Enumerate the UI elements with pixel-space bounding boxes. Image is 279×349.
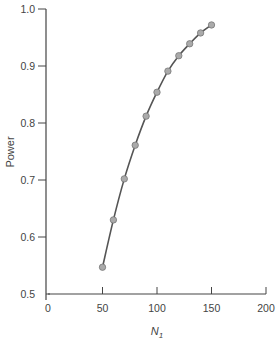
data-point-marker — [197, 30, 203, 36]
x-axis-label-main: N — [151, 325, 159, 337]
axes: 0.50.60.70.80.91.0050100150200 — [20, 3, 275, 314]
data-point-marker — [187, 41, 193, 47]
y-axis-label: Power — [4, 136, 16, 168]
y-tick-label: 0.7 — [20, 174, 35, 186]
y-tick-label: 1.0 — [20, 3, 35, 15]
data-series — [99, 22, 214, 271]
x-tick-label: 0 — [45, 302, 51, 314]
data-point-marker — [143, 113, 149, 119]
data-point-marker — [208, 22, 214, 28]
data-point-marker — [110, 217, 116, 223]
chart-canvas: 0.50.60.70.80.91.0050100150200 Power N1 — [0, 0, 279, 349]
y-tick-label: 0.6 — [20, 231, 35, 243]
power-curve-line — [103, 25, 212, 267]
power-curve-chart: 0.50.60.70.80.91.0050100150200 Power N1 — [0, 0, 279, 349]
y-tick-label: 0.9 — [20, 60, 35, 72]
x-axis-label-subscript: 1 — [159, 331, 163, 340]
data-point-marker — [176, 53, 182, 59]
x-axis-label: N1 — [151, 325, 163, 340]
x-tick-label: 150 — [203, 302, 221, 314]
x-tick-label: 200 — [257, 302, 275, 314]
data-point-marker — [132, 142, 138, 148]
y-tick-label: 0.5 — [20, 288, 35, 300]
y-tick-label: 0.8 — [20, 117, 35, 129]
data-point-marker — [165, 68, 171, 74]
x-tick-label: 100 — [148, 302, 166, 314]
data-point-marker — [121, 176, 127, 182]
data-point-marker — [154, 89, 160, 95]
data-point-marker — [99, 264, 105, 270]
x-tick-label: 50 — [97, 302, 109, 314]
